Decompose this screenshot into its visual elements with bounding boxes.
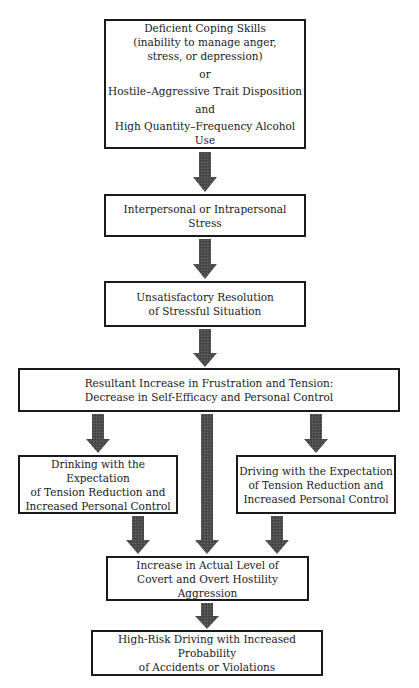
node-text: Interpersonal or Intrapersonal Stress [106, 202, 304, 230]
node-text: High Quantity–Frequency Alcohol Use [106, 119, 304, 147]
arrow-down-long-icon [195, 414, 219, 554]
node-drinking: Drinking with the Expectation of Tension… [18, 455, 178, 514]
arrow-down-icon [265, 516, 289, 554]
connector-or: or [199, 67, 210, 81]
node-text: Covert and Overt Hostility Aggression [108, 572, 307, 600]
node-text: Increased Personal Control [243, 492, 388, 506]
node-text: Drinking with the Expectation [20, 457, 176, 485]
node-text: Resultant Increase in Frustration and Te… [85, 376, 334, 390]
node-text: Hostile–Aggressive Trait Disposition [108, 84, 302, 98]
node-text: of Tension Reduction and [30, 485, 165, 499]
node-text: (inability to manage anger, [133, 35, 276, 49]
connector-and: and [195, 102, 215, 116]
node-coping-skills: Deficient Coping Skills (inability to ma… [104, 19, 306, 149]
node-text: Driving with the Expectation [239, 464, 393, 478]
arrow-down-icon [304, 414, 328, 453]
node-text: Decrease in Self-Efficacy and Personal C… [85, 390, 333, 404]
node-driving: Driving with the Expectation of Tension … [236, 455, 396, 514]
node-resolution: Unsatisfactory Resolution of Stressful S… [104, 281, 306, 327]
node-text: Increase in Actual Level of [136, 558, 278, 572]
node-high-risk-driving: High-Risk Driving with Increased Probabi… [91, 630, 323, 676]
node-text: Increased Personal Control [25, 499, 170, 513]
node-text: of Accidents or Violations [139, 660, 275, 674]
node-text: stress, or depression) [147, 49, 262, 63]
node-text: High-Risk Driving with Increased Probabi… [93, 632, 321, 660]
node-frustration: Resultant Increase in Frustration and Te… [18, 368, 400, 412]
arrow-down-icon [195, 603, 219, 629]
node-stress: Interpersonal or Intrapersonal Stress [104, 194, 306, 237]
arrow-down-icon [126, 516, 150, 554]
arrow-down-icon [193, 152, 217, 192]
arrow-down-icon [193, 239, 217, 279]
node-text: Deficient Coping Skills [144, 21, 266, 35]
node-text: of Stressful Situation [149, 304, 262, 318]
node-aggression: Increase in Actual Level of Covert and O… [106, 556, 309, 601]
arrow-down-icon [86, 414, 110, 453]
node-text: Unsatisfactory Resolution [136, 290, 274, 304]
arrow-down-icon [193, 329, 217, 367]
node-text: of Tension Reduction and [248, 478, 383, 492]
